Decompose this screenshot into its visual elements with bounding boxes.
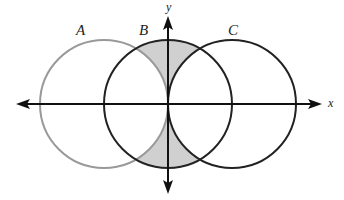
label-b: B — [139, 22, 148, 39]
x-axis-label: x — [328, 96, 333, 111]
label-c: C — [228, 22, 238, 39]
diagram-canvas — [0, 0, 344, 200]
venn-diagram: A B C y x — [0, 0, 344, 200]
label-a: A — [76, 22, 85, 39]
shaded-region — [0, 0, 344, 200]
y-axis-label: y — [166, 0, 171, 15]
